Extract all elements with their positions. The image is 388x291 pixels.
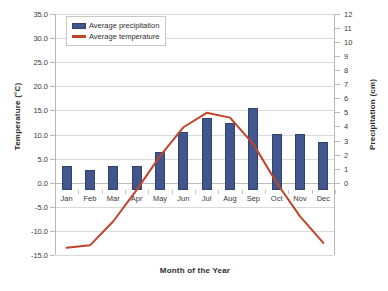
chart-legend: Average precipitation Average temperatur…	[66, 16, 166, 46]
y-axis-left-tick-label: 20.0	[4, 82, 48, 91]
y-axis-left-tick-label: -5.0	[4, 202, 48, 211]
y-axis-left-tick-label: 35.0	[4, 10, 48, 19]
y-axis-right-tick-label: 7	[344, 80, 370, 89]
y-axis-left-tick-label: -15.0	[4, 251, 48, 260]
bar-swatch-icon	[72, 23, 86, 29]
y-axis-right-tick-label: 0	[344, 178, 370, 187]
y-axis-left-tick-label: 25.0	[4, 58, 48, 67]
y-axis-right-tick-mark	[335, 112, 340, 113]
y-axis-right-tick-mark	[335, 169, 340, 170]
y-axis-right-tick-label: 1	[344, 164, 370, 173]
y-axis-right-tick-label: 8	[344, 66, 370, 75]
y-axis-left-tick-label: 0.0	[4, 178, 48, 187]
y-axis-right-tick-label: 3	[344, 136, 370, 145]
y-axis-right-tick-mark	[335, 183, 340, 184]
legend-item-precipitation: Average precipitation	[72, 20, 159, 31]
y-axis-right-tick-mark	[335, 141, 340, 142]
x-axis-tick-mark	[335, 190, 336, 194]
y-axis-right-tick-mark	[335, 126, 340, 127]
y-axis-right-tick-mark	[335, 84, 340, 85]
gridline	[56, 255, 334, 256]
y-axis-right-tick-label: 2	[344, 150, 370, 159]
y-axis-right-tick-label: 12	[344, 10, 370, 19]
y-axis-right-tick-mark	[335, 70, 340, 71]
y-axis-right-tick-mark	[335, 14, 340, 15]
temperature-line	[55, 14, 335, 255]
climate-chart: Temperature (°C) Precipitation (cm) Mont…	[0, 0, 388, 291]
y-axis-right-tick-label: 4	[344, 122, 370, 131]
y-axis-right-tick-mark	[335, 42, 340, 43]
y-axis-right-tick-mark	[335, 98, 340, 99]
y-axis-right-tick-label: 10	[344, 38, 370, 47]
y-axis-right-tick-label: 6	[344, 94, 370, 103]
y-axis-right-tick-mark	[335, 56, 340, 57]
y-axis-left-tick-label: -10.0	[4, 226, 48, 235]
y-axis-right-tick-label: 9	[344, 52, 370, 61]
y-axis-left-tick-label: 30.0	[4, 34, 48, 43]
line-swatch-icon	[72, 35, 86, 38]
temperature-polyline	[67, 113, 324, 248]
y-axis-left-tick-label: 5.0	[4, 154, 48, 163]
y-axis-right-tick-label: 5	[344, 108, 370, 117]
y-axis-left-tick-mark	[50, 255, 55, 256]
y-axis-left-tick-label: 10.0	[4, 130, 48, 139]
legend-label-precipitation: Average precipitation	[89, 21, 159, 30]
legend-item-temperature: Average temperature	[72, 31, 159, 42]
y-axis-left-tick-label: 15.0	[4, 106, 48, 115]
x-axis-title: Month of the Year	[55, 266, 335, 275]
y-axis-right-tick-label: 11	[344, 24, 370, 33]
y-axis-right-tick-mark	[335, 155, 340, 156]
legend-label-temperature: Average temperature	[89, 32, 159, 41]
y-axis-right-tick-mark	[335, 28, 340, 29]
